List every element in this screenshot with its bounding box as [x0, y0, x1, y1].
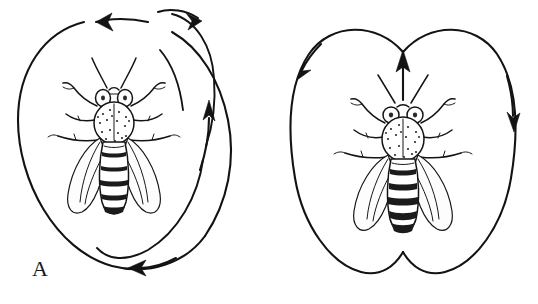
bee-abdomen: [99, 142, 128, 214]
bottom-arrow-left: [128, 258, 176, 276]
bee-thorax: [382, 117, 424, 161]
panel-b-drawing: [269, 0, 538, 304]
bee-illustration-a: [48, 58, 180, 214]
left-loop-arrow: [297, 44, 321, 80]
panel-a-label: A: [32, 258, 48, 280]
bee-antennae: [92, 58, 136, 88]
top-right-arrow: [158, 10, 202, 30]
top-left-arrow: [96, 13, 148, 31]
waggle-run-arrow: [396, 50, 410, 100]
panel-b-waggle-dance: B: [269, 0, 538, 304]
bee-abdomen: [387, 159, 418, 233]
panel-a-round-dance: A: [0, 0, 269, 304]
bee-dance-figure: A: [0, 0, 538, 304]
